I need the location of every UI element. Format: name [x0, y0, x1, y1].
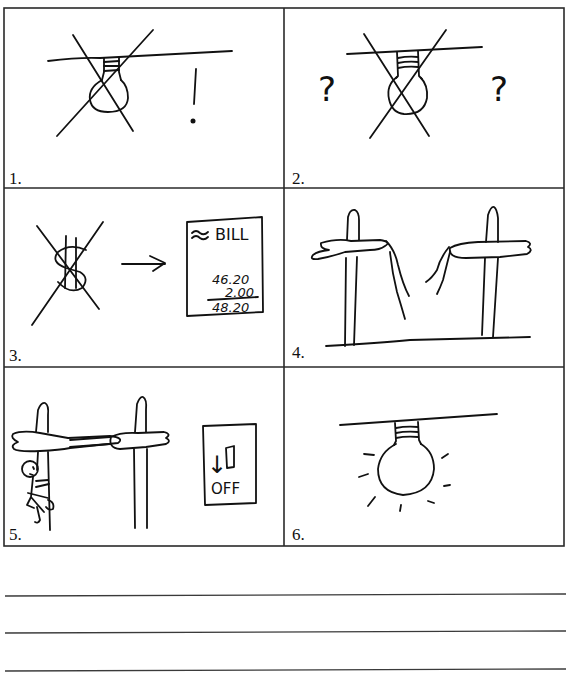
answer-writing-lines[interactable]	[5, 594, 566, 671]
panel-2: ? ? 2.	[292, 30, 508, 188]
writing-line-3[interactable]	[5, 669, 566, 671]
ground-line	[326, 337, 530, 346]
lit-bulb-icon	[340, 414, 497, 511]
light-switch: ↓ OFF	[203, 424, 256, 505]
panel-2-number: 2.	[292, 169, 305, 188]
panel-6: 6.	[292, 414, 497, 544]
utility-pole-right	[110, 397, 169, 528]
switch-state-label: OFF	[211, 480, 240, 498]
exclamation-icon: !	[0, 0, 196, 124]
panel-3: BILL 46.20 2.00 48.20 3.	[9, 217, 263, 365]
utility-pole-left	[12, 403, 120, 530]
panel-5: ↓ OFF 5.	[9, 397, 256, 544]
arrow-right-icon	[122, 256, 165, 271]
question-mark-right: ?	[490, 69, 508, 109]
bill-document: BILL 46.20 2.00 48.20	[187, 217, 263, 316]
crossed-bulb-icon	[347, 30, 482, 138]
panel-3-number: 3.	[9, 346, 22, 365]
switch-arrow: ↓	[207, 451, 227, 479]
crossed-bulb-icon	[48, 30, 232, 136]
panel-5-number: 5.	[9, 525, 22, 544]
panel-1: ! 1.	[0, 0, 232, 188]
crossed-dollar-icon	[32, 222, 103, 325]
panel-4-number: 4.	[292, 343, 305, 362]
writing-line-2[interactable]	[5, 631, 566, 633]
worksheet-page: ! 1. ? ? 2. BILL	[0, 0, 569, 699]
panel-4: 4.	[292, 207, 531, 362]
panel-1-number: 1.	[9, 169, 22, 188]
broken-wire	[386, 241, 450, 319]
question-mark-left: ?	[318, 69, 336, 109]
utility-pole-left	[312, 210, 388, 346]
bill-total: 48.20	[212, 300, 249, 315]
comic-grid: ! 1. ? ? 2. BILL	[0, 0, 569, 699]
bill-title: BILL	[215, 225, 249, 244]
panel-6-number: 6.	[292, 525, 305, 544]
writing-line-1[interactable]	[5, 594, 566, 596]
panel-grid-frame	[4, 8, 564, 546]
utility-pole-right	[450, 207, 531, 337]
